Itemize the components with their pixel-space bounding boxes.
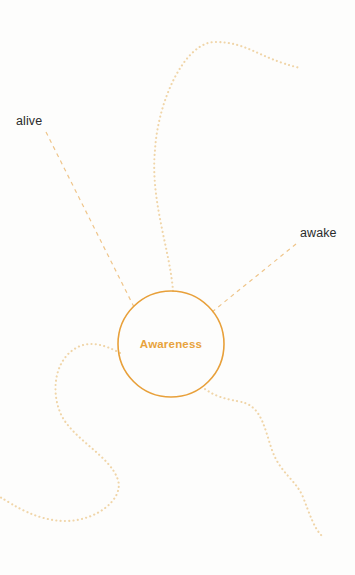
- connector-alive: [46, 132, 134, 307]
- mindmap-canvas: Awareness mind map A central circle labe…: [0, 0, 355, 575]
- leaf-label-alive[interactable]: alive: [16, 114, 42, 128]
- leaf-label-group: alive awake: [16, 114, 337, 240]
- connector-awake: [212, 244, 296, 312]
- mindmap-diagram: Awareness mind map A central circle labe…: [0, 0, 355, 575]
- center-node[interactable]: Awareness: [118, 291, 224, 397]
- branch-group: [0, 42, 322, 536]
- connector-group: [46, 132, 296, 312]
- center-node-label: Awareness: [140, 338, 202, 350]
- branch-bottom-right-dotted: [205, 389, 322, 536]
- branch-top-dotted: [154, 42, 300, 291]
- leaf-label-awake[interactable]: awake: [300, 226, 337, 240]
- branch-bottom-left-dotted: [0, 344, 120, 521]
